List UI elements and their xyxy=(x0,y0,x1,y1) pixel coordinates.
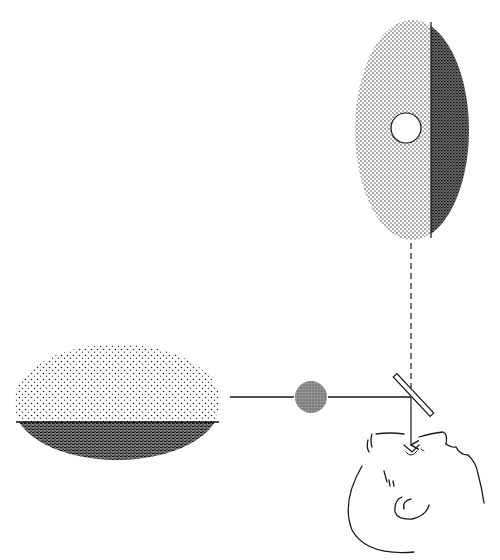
observer-head xyxy=(348,432,484,553)
optical-diagram xyxy=(0,0,500,560)
vertical-field xyxy=(355,20,469,240)
half-silvered-mirror xyxy=(393,374,433,417)
aperture-circle xyxy=(391,113,421,143)
horizontal-field xyxy=(14,344,220,460)
grey-sphere xyxy=(295,381,327,413)
